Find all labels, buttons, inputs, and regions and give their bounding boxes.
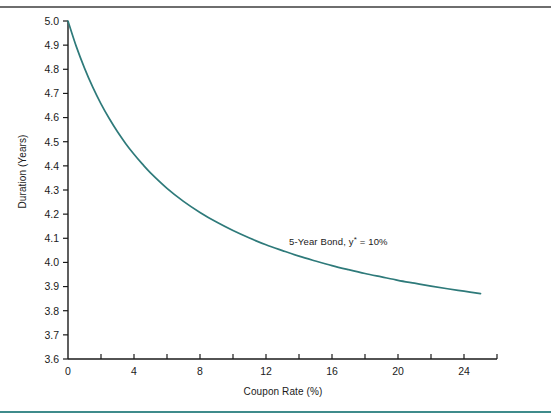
- y-tick-label: 3.9: [44, 280, 59, 292]
- x-axis-ticks: 04812162024: [65, 354, 497, 377]
- annotation-suffix: = 10%: [357, 236, 388, 247]
- x-axis-title: Coupon Rate (%): [68, 386, 498, 397]
- y-tick-label: 4.5: [44, 136, 59, 148]
- x-tick-label: 20: [392, 365, 404, 377]
- y-tick-label: 4.3: [44, 184, 59, 196]
- curve-annotation: 5-Year Bond, y* = 10%: [289, 235, 388, 247]
- y-axis-title: Duration (Years): [17, 112, 28, 232]
- x-tick-label: 24: [458, 365, 470, 377]
- y-tick-label: 4.4: [44, 160, 59, 172]
- x-tick-label: 0: [65, 365, 71, 377]
- y-tick-label: 3.8: [44, 305, 59, 317]
- y-tick-label: 4.1: [44, 232, 59, 244]
- x-tick-label: 4: [131, 365, 137, 377]
- y-tick-label: 4.7: [44, 87, 59, 99]
- x-tick-label: 8: [197, 365, 203, 377]
- x-tick-label: 12: [260, 365, 272, 377]
- y-tick-label: 4.9: [44, 39, 59, 51]
- y-tick-label: 3.7: [44, 329, 59, 341]
- annotation-prefix: 5-Year Bond, y: [289, 236, 354, 247]
- y-tick-label: 4.0: [44, 256, 59, 268]
- duration-coupon-rate-chart: 3.63.73.83.94.04.14.24.34.44.54.64.74.84…: [0, 8, 551, 409]
- y-tick-label: 4.2: [44, 208, 59, 220]
- figure-container: 3.63.73.83.94.04.14.24.34.44.54.64.74.84…: [0, 8, 551, 409]
- plot-axes: [68, 21, 497, 359]
- duration-curve-line: [68, 21, 481, 294]
- bottom-divider-rule: [0, 411, 551, 413]
- y-tick-label: 5.0: [44, 15, 59, 27]
- y-axis-ticks: 3.63.73.83.94.04.14.24.34.44.54.64.74.84…: [44, 15, 68, 365]
- chart-page: 3.63.73.83.94.04.14.24.34.44.54.64.74.84…: [0, 0, 551, 419]
- y-tick-label: 3.6: [44, 353, 59, 365]
- y-tick-label: 4.6: [44, 111, 59, 123]
- x-tick-label: 16: [326, 365, 338, 377]
- y-tick-label: 4.8: [44, 63, 59, 75]
